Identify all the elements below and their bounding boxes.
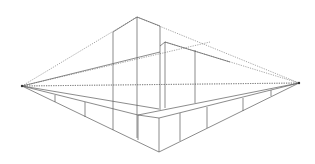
slab-right-front-top-edge	[159, 83, 299, 118]
slab-front-top-left	[138, 115, 159, 118]
left-vp-top-guide	[22, 17, 137, 86]
step-top-left	[160, 42, 165, 46]
tall-block-mid-line	[22, 52, 160, 86]
slab-left-inner-edge	[22, 86, 159, 109]
center-guide	[22, 83, 299, 86]
slab-left-top-edge	[22, 86, 138, 115]
tall-block-top-left-edge	[113, 17, 137, 32]
base-slab	[22, 83, 299, 152]
step-block	[160, 42, 230, 108]
perspective-svg	[0, 0, 315, 164]
perspective-drawing	[0, 0, 315, 164]
tall-block	[22, 17, 160, 138]
slab-right-top-edge	[138, 83, 299, 115]
tall-block-top-right-edge	[137, 17, 160, 26]
right-vanishing-point	[298, 82, 300, 84]
right-vp-top-guide	[137, 17, 299, 83]
slab-left-bottom-edge	[22, 86, 159, 152]
left-vanishing-point	[21, 85, 23, 87]
